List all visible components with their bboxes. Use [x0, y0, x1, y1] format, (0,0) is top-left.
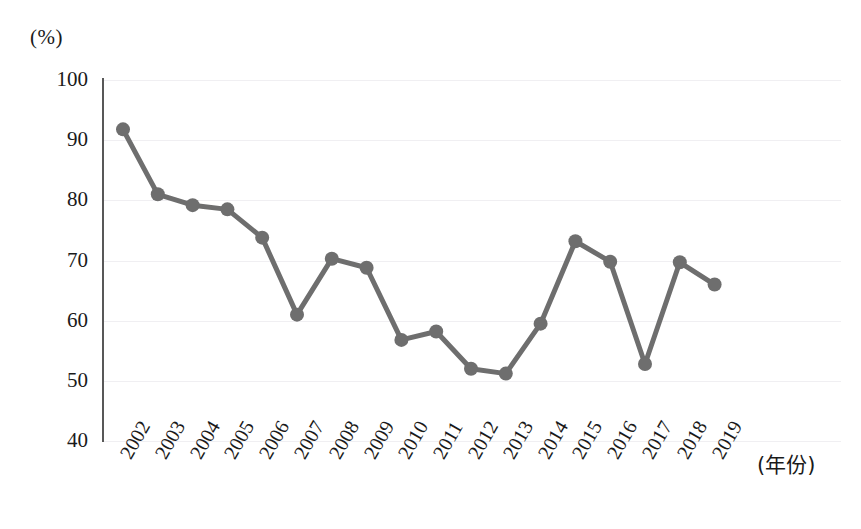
data-point-marker [499, 367, 513, 381]
data-point-marker [151, 187, 165, 201]
data-point-marker [464, 362, 478, 376]
data-series-layer [0, 0, 861, 529]
data-point-marker [220, 202, 234, 216]
data-point-marker [603, 255, 617, 269]
data-point-marker [360, 261, 374, 275]
series-line [123, 129, 715, 373]
data-point-marker [429, 324, 443, 338]
data-point-marker [394, 333, 408, 347]
data-point-marker [708, 278, 722, 292]
data-point-marker [290, 308, 304, 322]
data-point-marker [534, 317, 548, 331]
line-chart: (%) 100908070605040 20022003200420052006… [0, 0, 861, 529]
data-point-marker [325, 252, 339, 266]
data-point-marker [186, 198, 200, 212]
data-point-marker [568, 234, 582, 248]
data-point-marker [116, 122, 130, 136]
data-point-marker [638, 357, 652, 371]
data-point-marker [255, 231, 269, 245]
data-point-marker [673, 255, 687, 269]
